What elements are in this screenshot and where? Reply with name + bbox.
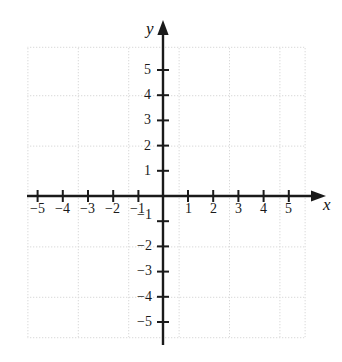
y-tick-label-1: 1 bbox=[144, 164, 151, 178]
x-tick-label-neg2: −2 bbox=[105, 202, 120, 216]
x-tick-label-1: 1 bbox=[185, 202, 192, 216]
x-tick-label-neg5: −5 bbox=[30, 202, 45, 216]
y-tick-label-neg4: −4 bbox=[137, 290, 152, 304]
y-tick-label-3: 3 bbox=[144, 113, 151, 127]
y-tick-label-4: 4 bbox=[144, 88, 151, 102]
x-tick-label-neg4: −4 bbox=[55, 202, 70, 216]
x-tick-label-4: 4 bbox=[260, 202, 267, 216]
coordinate-plane-svg bbox=[0, 0, 342, 362]
x-tick-label-5: 5 bbox=[285, 202, 292, 216]
y-tick-label-neg1: −1 bbox=[137, 208, 152, 222]
y-tick-label-2: 2 bbox=[144, 139, 151, 153]
plot-background bbox=[0, 0, 342, 362]
coordinate-plane-figure: −5 −4 −3 −2 −1 1 2 3 4 5 5 4 3 2 1 −1 −2… bbox=[0, 0, 342, 362]
x-tick-label-2: 2 bbox=[210, 202, 217, 216]
y-tick-label-neg5: −5 bbox=[137, 315, 152, 329]
y-axis-label: y bbox=[146, 20, 154, 37]
x-axis-label: x bbox=[323, 196, 331, 213]
x-tick-label-3: 3 bbox=[235, 202, 242, 216]
y-tick-label-5: 5 bbox=[144, 63, 151, 77]
y-tick-label-neg2: −2 bbox=[137, 239, 152, 253]
y-tick-label-neg3: −3 bbox=[137, 264, 152, 278]
x-tick-label-neg3: −3 bbox=[80, 202, 95, 216]
